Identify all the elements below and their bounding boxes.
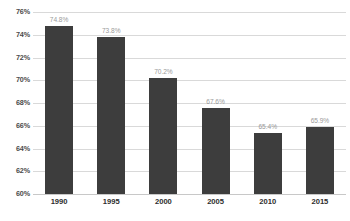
- y-axis-tick-label: 68%: [0, 99, 30, 106]
- bar-group: 73.8%: [85, 12, 137, 194]
- bar: [306, 127, 334, 194]
- bar-value-label: 67.6%: [206, 99, 224, 106]
- bar-series: 74.8%73.8%70.2%67.6%65.4%65.9%: [33, 12, 346, 194]
- y-axis-tick-label: 70%: [0, 77, 30, 84]
- bar-group: 65.9%: [294, 12, 346, 194]
- x-axis-tick-label: 2005: [207, 198, 224, 206]
- x-axis-baseline: [33, 194, 346, 195]
- y-axis-tick-label: 72%: [0, 54, 30, 61]
- bar-value-label: 65.4%: [259, 124, 277, 131]
- bar-chart: 60%62%64%66%68%70%72%74%76% 74.8%73.8%70…: [0, 0, 350, 221]
- bar-group: 65.4%: [242, 12, 294, 194]
- bar-group: 67.6%: [190, 12, 242, 194]
- bar-group: 74.8%: [33, 12, 85, 194]
- y-axis-tick-label: 66%: [0, 122, 30, 129]
- x-axis-tick-label: 2000: [155, 198, 172, 206]
- bar-value-label: 74.8%: [50, 17, 68, 24]
- bar: [254, 133, 282, 194]
- y-axis-tick-label: 60%: [0, 190, 30, 197]
- y-axis: 60%62%64%66%68%70%72%74%76%: [0, 12, 30, 194]
- y-axis-tick-label: 74%: [0, 31, 30, 38]
- bar: [149, 78, 177, 194]
- x-axis-tick-label: 2015: [311, 198, 328, 206]
- x-axis: 199019952000200520102015: [33, 198, 346, 214]
- x-axis-tick-label: 1990: [51, 198, 68, 206]
- bar-value-label: 70.2%: [154, 69, 172, 76]
- x-axis-tick-label: 1995: [103, 198, 120, 206]
- y-axis-tick-label: 64%: [0, 145, 30, 152]
- y-axis-tick-label: 76%: [0, 8, 30, 15]
- bar-value-label: 73.8%: [102, 28, 120, 35]
- bar: [45, 26, 73, 194]
- x-axis-tick-label: 2010: [259, 198, 276, 206]
- bar-group: 70.2%: [137, 12, 189, 194]
- bar-value-label: 65.9%: [311, 118, 329, 125]
- y-axis-tick-label: 62%: [0, 168, 30, 175]
- bar: [97, 37, 125, 194]
- bar: [202, 108, 230, 194]
